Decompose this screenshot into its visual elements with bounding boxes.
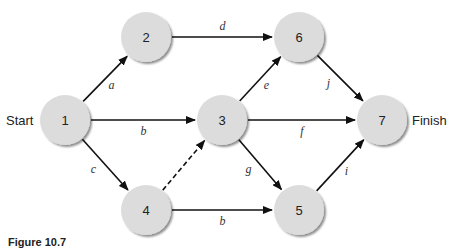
edge-3-7: f — [248, 120, 355, 138]
edge-3-5: g — [239, 140, 282, 190]
edge-label: b — [141, 124, 147, 138]
edge-4-5: b — [172, 210, 272, 228]
edge-arrow — [317, 140, 364, 191]
node-label: 7 — [378, 113, 385, 128]
edge-label: a — [109, 78, 115, 92]
edge-label: i — [345, 164, 348, 178]
edge-1-2: a — [83, 56, 127, 101]
edge-1-4: c — [82, 139, 128, 190]
node-label: 1 — [61, 113, 68, 128]
node-2: 2 — [121, 12, 171, 62]
node-7: 7 — [357, 95, 407, 145]
node-1: 1 — [40, 95, 90, 145]
start-label: Start — [6, 113, 34, 128]
figure-number: Figure 10.7 — [8, 236, 66, 248]
edge-label: f — [300, 124, 305, 138]
node-label: 3 — [218, 113, 225, 128]
edge-arrow — [240, 57, 281, 101]
edge-2-6: d — [172, 19, 272, 37]
edge-label: g — [246, 162, 252, 176]
node-3: 3 — [197, 95, 247, 145]
edge-label: c — [91, 162, 97, 176]
edge-6-7: j — [317, 55, 363, 101]
edge-label: b — [220, 214, 226, 228]
node-4: 4 — [121, 185, 171, 235]
nodes-layer: 1234567 — [40, 12, 407, 235]
figure-caption: Figure 10.7 — [8, 236, 66, 248]
edge-label: j — [325, 76, 331, 90]
edge-arrow — [83, 56, 127, 101]
edge-5-7: i — [317, 140, 364, 191]
node-6: 6 — [274, 12, 324, 62]
edge-label: e — [264, 78, 270, 92]
node-label: 2 — [142, 30, 149, 45]
edge-4-3 — [163, 141, 205, 191]
edge-3-6: e — [240, 57, 281, 101]
edge-arrow — [163, 141, 205, 191]
edge-1-3: b — [91, 120, 195, 138]
edge-label: d — [220, 19, 227, 33]
edge-arrow — [82, 139, 128, 190]
finish-label: Finish — [412, 113, 447, 128]
node-label: 4 — [142, 203, 149, 218]
edge-arrow — [317, 55, 363, 101]
node-label: 6 — [295, 30, 302, 45]
node-5: 5 — [274, 185, 324, 235]
node-label: 5 — [295, 203, 302, 218]
